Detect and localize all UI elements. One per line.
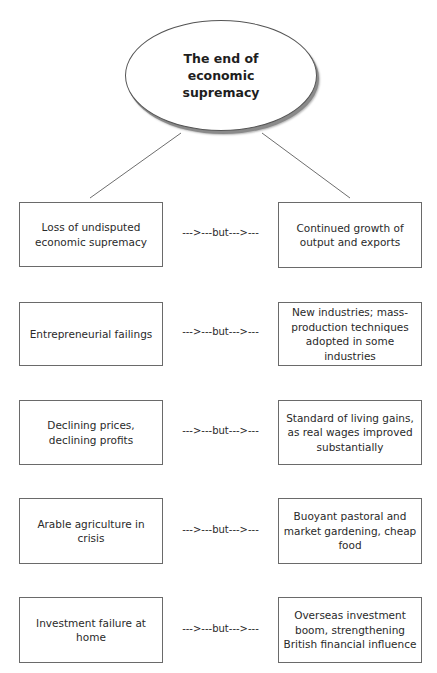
left-box-text: Investment failure at home (23, 616, 159, 645)
but-connector-5: --->---but--->--- (163, 623, 278, 634)
central-topic-title: The end of economic supremacy (151, 50, 291, 101)
title-line-2: economic supremacy (151, 67, 291, 101)
right-box-2: New industries; mass-production techniqu… (278, 302, 422, 366)
right-box-text: Buoyant pastoral and market gardening, c… (282, 509, 418, 553)
diagram-canvas: The end of economic supremacy Loss of un… (0, 0, 437, 673)
but-connector-4: --->---but--->--- (163, 524, 278, 535)
but-connector-1: --->---but--->--- (163, 227, 278, 238)
right-box-1: Continued growth of output and exports (278, 202, 422, 268)
left-box-5: Investment failure at home (19, 597, 163, 663)
right-box-5: Overseas investment boom, strengthening … (278, 597, 422, 663)
left-box-text: Arable agriculture in crisis (23, 517, 159, 546)
line-to-left-column (90, 133, 181, 198)
left-box-text: Declining prices, declining profits (23, 418, 159, 447)
right-box-text: Overseas investment boom, strengthening … (282, 608, 418, 652)
left-box-2: Entrepreneurial failings (19, 302, 163, 366)
left-box-3: Declining prices, declining profits (19, 400, 163, 465)
left-box-1: Loss of undisputed economic supremacy (19, 202, 163, 267)
right-box-text: New industries; mass-production techniqu… (282, 305, 418, 363)
left-box-text: Loss of undisputed economic supremacy (23, 220, 159, 249)
right-box-text: Standard of living gains, as real wages … (282, 411, 418, 455)
line-to-right-column (262, 133, 350, 198)
left-box-4: Arable agriculture in crisis (19, 498, 163, 564)
but-connector-3: --->---but--->--- (163, 425, 278, 436)
right-box-4: Buoyant pastoral and market gardening, c… (278, 498, 422, 564)
right-box-text: Continued growth of output and exports (282, 221, 418, 250)
left-box-text: Entrepreneurial failings (30, 327, 153, 342)
central-topic-ellipse: The end of economic supremacy (125, 20, 317, 131)
title-line-1: The end of (151, 50, 291, 67)
but-connector-2: --->---but--->--- (163, 326, 278, 337)
right-box-3: Standard of living gains, as real wages … (278, 400, 422, 465)
